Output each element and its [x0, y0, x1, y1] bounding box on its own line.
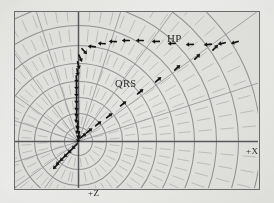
label-axis-x: +X [246, 146, 258, 156]
polar-plot-svg [15, 12, 258, 188]
label-hp: HP [167, 32, 182, 44]
label-axis-z: +Z [88, 188, 99, 198]
figure-frame: HP QRS +X +Z [14, 11, 260, 190]
label-qrs: QRS [115, 78, 136, 89]
polar-plot-area [15, 12, 259, 189]
vcg-figure: HP QRS +X +Z [0, 0, 274, 203]
